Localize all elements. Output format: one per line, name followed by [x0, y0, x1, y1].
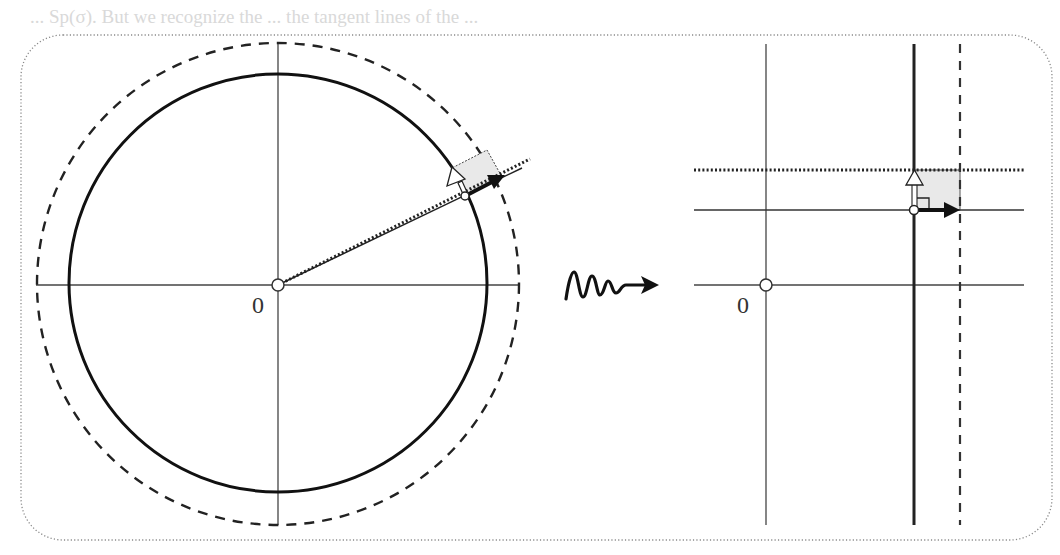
- left-origin-point: [272, 279, 284, 291]
- diagram-canvas: 0 0: [0, 0, 1060, 555]
- right-shaded-square: [914, 170, 960, 210]
- right-origin-point: [760, 279, 772, 291]
- right-point: [910, 206, 919, 215]
- left-origin-label: 0: [252, 292, 264, 318]
- right-origin-label: 0: [737, 292, 749, 318]
- left-circle-point: [461, 192, 469, 200]
